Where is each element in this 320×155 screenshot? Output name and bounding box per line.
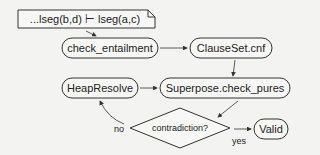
decision-label: contradiction?	[140, 124, 220, 133]
arrow-cnf-to-superpose	[233, 60, 235, 76]
node-heap-resolve: HeapResolve	[62, 83, 138, 94]
arrow-no-to-heap	[100, 101, 124, 124]
node-check-entailment: check_entailment	[62, 43, 158, 54]
arrow-doc-to-check	[86, 31, 96, 36]
arrow-superpose-to-decision	[218, 101, 238, 117]
node-superpose: Superpose.check_pures	[160, 83, 290, 94]
entailment-document-label: ...lseg(b,d) ⊢ lseg(a,c)	[22, 14, 148, 25]
node-valid: Valid	[254, 124, 288, 135]
node-clauseset-cnf: ClauseSet.cnf	[190, 43, 272, 54]
edge-label-yes: yes	[232, 137, 246, 146]
edge-label-no: no	[114, 125, 124, 134]
